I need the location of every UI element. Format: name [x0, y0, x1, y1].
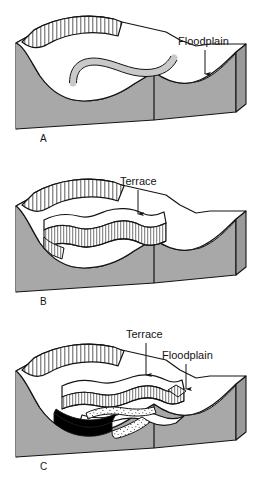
terrace-label-b: Terrace — [120, 175, 157, 187]
panel-a: Floodplain A — [16, 16, 246, 144]
panel-b: Terrace B — [16, 175, 246, 307]
panel-letter-b: B — [40, 296, 47, 307]
panel-b-right-face — [236, 211, 246, 275]
panel-c: Terrace Floodplain C — [16, 328, 246, 472]
panel-c-right-face — [236, 376, 246, 440]
panel-letter-c: C — [40, 461, 47, 472]
panel-letter-a: A — [40, 133, 47, 144]
floodplain-label-c: Floodplain — [162, 349, 213, 361]
panel-a-right-face — [236, 44, 246, 112]
terrace-formation-figure: Floodplain A Terrace — [0, 0, 256, 478]
terrace-label-c: Terrace — [126, 328, 163, 340]
figure-canvas: Floodplain A Terrace — [0, 0, 256, 478]
floodplain-label-a: Floodplain — [178, 35, 229, 47]
